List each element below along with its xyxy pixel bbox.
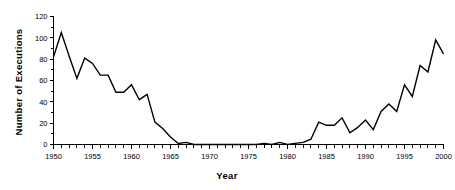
x-tick-label: 1995 [396,152,413,161]
x-tick-label-group: 1950195519601965197019751980198519901995… [45,152,452,161]
y-axis-title-group: Number of Executions [13,29,24,136]
x-tick-label: 1975 [240,152,257,161]
x-tick-label: 1980 [279,152,296,161]
chart-canvas: Number of Executions Year 02040608010012… [0,0,455,190]
x-tick-label: 1955 [84,152,101,161]
x-axis-title: Year [216,170,237,181]
x-tick-label: 1965 [162,152,179,161]
x-tick-label: 1970 [201,152,218,161]
y-tick-label: 60 [39,76,47,85]
y-tick-label-group: 020406080100120 [35,12,48,149]
y-tick-label: 0 [43,140,47,149]
x-tick-label: 2000 [435,152,452,161]
x-tick-label: 1985 [318,152,335,161]
y-tick-label: 20 [39,119,47,128]
execution-line-chart: Number of Executions Year 02040608010012… [0,0,455,190]
y-tick-label: 100 [35,34,48,43]
x-axis-title-group: Year [216,170,237,181]
y-tick-mark-group [50,17,54,145]
x-tick-label: 1960 [123,152,140,161]
y-tick-label: 80 [39,55,47,64]
x-tick-label: 1990 [357,152,374,161]
y-tick-label: 120 [35,12,48,21]
y-tick-label: 40 [39,98,47,107]
executions-series-line [54,33,444,145]
y-axis-title: Number of Executions [13,29,24,136]
x-tick-label: 1950 [45,152,62,161]
